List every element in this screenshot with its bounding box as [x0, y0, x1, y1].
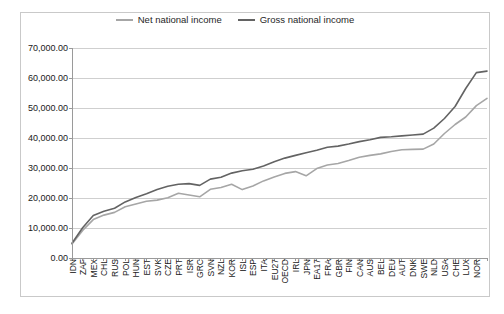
x-axis-tick-label-svk: SVK [154, 259, 163, 276]
plot-area [72, 48, 487, 258]
y-axis-tick-label: 0.00 [20, 253, 68, 264]
x-axis-tick-label-can: CAN [356, 259, 365, 277]
x-axis-tick-label-ita: ITA [260, 259, 269, 272]
x-axis-tick-label-ea17: EA17 [313, 259, 322, 280]
y-axis-tick-label: 20,000.00 [20, 193, 68, 204]
x-axis-labels: IDNZAFMEXCHLRUSPOLHUNESTSVKCZEPRTISRGRCS… [72, 259, 487, 299]
x-axis-tick-label-deu: DEU [388, 259, 397, 277]
x-axis-tick-label-che: CHE [452, 259, 461, 277]
x-axis-tick-label-nor: NOR [473, 259, 482, 278]
x-axis-tick-label-usa: USA [441, 259, 450, 276]
x-axis-tick-label-jpn: JPN [303, 259, 312, 275]
x-axis-tick-label-esp: ESP [249, 259, 258, 276]
x-axis-tick-label-isl: ISL [239, 259, 248, 272]
x-axis-tick-label-prt: PRT [175, 259, 184, 276]
x-axis-tick-label-aut: AUT [398, 259, 407, 276]
x-axis-tick-label-pol: POL [122, 259, 131, 276]
x-axis-tick-label-nzl: NZL [217, 259, 226, 275]
x-axis-tick-label-kor: KOR [228, 259, 237, 277]
x-axis-tick-label-eu27: EU27 [271, 259, 280, 280]
x-axis-tick-label-isr: ISR [186, 259, 195, 273]
x-axis-tick-label-chl: CHL [100, 259, 109, 276]
x-axis-tick-label-rus: RUS [111, 259, 120, 277]
x-axis-tick-label-irl: IRL [292, 259, 301, 272]
y-axis-tick-label: 70,000.00 [20, 43, 68, 54]
x-axis-tick-label-fra: FRA [324, 259, 333, 276]
x-axis-tick-label-zaf: ZAF [79, 259, 88, 275]
x-axis-tick-label-est: EST [143, 259, 152, 276]
x-axis-tick-label-aus: AUS [366, 259, 375, 276]
y-axis-labels: 0.0010,000.0020,000.0030,000.0040,000.00… [20, 42, 68, 264]
y-axis-tick-label: 30,000.00 [20, 163, 68, 174]
x-axis-tick-label-gbr: GBR [335, 259, 344, 277]
x-axis-ticks [69, 48, 487, 261]
chart-container: Net national incomeGross national income… [0, 0, 504, 314]
x-axis-tick-label-nld: NLD [430, 259, 439, 276]
x-axis-tick-label-oecd: OECD [281, 259, 290, 284]
series-line-net-national-income [72, 98, 487, 244]
x-axis-tick-label-cze: CZE [164, 259, 173, 276]
x-axis-tick-label-fin: FIN [345, 259, 354, 273]
x-axis-tick-label-grc: GRC [196, 259, 205, 278]
y-axis-tick-label: 50,000.00 [20, 103, 68, 114]
x-axis-tick-label-dnk: DNK [409, 259, 418, 277]
x-axis-tick-label-mex: MEX [90, 259, 99, 277]
plot-svg [72, 48, 487, 258]
x-axis-tick-label-idn: IDN [69, 259, 78, 274]
y-axis-tick-label: 40,000.00 [20, 133, 68, 144]
gridlines [72, 48, 487, 258]
y-axis-tick-label: 10,000.00 [20, 223, 68, 234]
x-axis-tick-label-swe: SWE [420, 259, 429, 278]
x-axis-tick-label-hun: HUN [132, 259, 141, 277]
x-axis-tick-label-svn: SVN [207, 259, 216, 276]
x-axis-tick-label-bel: BEL [377, 259, 386, 275]
series-lines [72, 71, 487, 244]
y-axis-tick-label: 60,000.00 [20, 73, 68, 84]
x-axis-tick-label-lux: LUX [462, 259, 471, 276]
series-line-gross-national-income [72, 71, 487, 243]
